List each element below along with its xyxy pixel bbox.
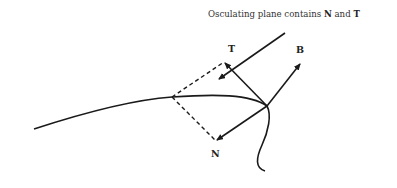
normal-vector <box>217 106 267 140</box>
tangent-vector <box>225 63 267 106</box>
label-binormal: B <box>296 44 304 55</box>
label-tangent: T <box>228 43 235 54</box>
frenet-frame-diagram <box>0 0 397 188</box>
caption-osculating-plane: Osculating plane contains N and T <box>208 9 360 19</box>
label-normal: N <box>211 148 220 159</box>
caption-prefix: Osculating plane contains <box>208 9 324 19</box>
binormal-vector <box>267 64 300 106</box>
caption-n: N <box>324 9 332 19</box>
plane-edge-top <box>172 62 224 97</box>
caption-pointer-arrow <box>219 33 285 79</box>
plane-edge-bottom <box>172 97 216 141</box>
space-curve <box>34 95 269 171</box>
caption-mid: and <box>332 9 354 19</box>
caption-t: T <box>353 9 359 19</box>
